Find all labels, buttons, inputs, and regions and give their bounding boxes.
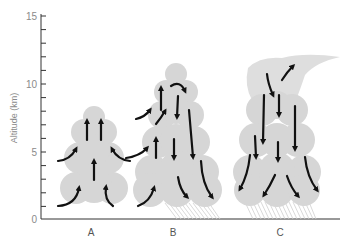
- y-tick-15: 15: [26, 11, 38, 22]
- stage-b-cloud: [126, 63, 222, 219]
- y-tick-0: 0: [31, 214, 37, 225]
- stage-label-b: B: [170, 227, 177, 238]
- y-tick-10: 10: [26, 79, 38, 90]
- y-axis-title: Altitude (km): [9, 93, 19, 144]
- stage-a-cloud: [58, 106, 130, 206]
- y-tick-5: 5: [31, 147, 37, 158]
- stage-c-cloud: [233, 55, 340, 219]
- thunderstorm-diagram: 15 10 5 0 Altitude (km): [0, 0, 350, 248]
- stage-label-a: A: [88, 227, 95, 238]
- stage-label-c: C: [276, 227, 283, 238]
- y-axis-ticks: [41, 16, 46, 206]
- y-axis: 15 10 5 0 Altitude (km): [9, 11, 46, 225]
